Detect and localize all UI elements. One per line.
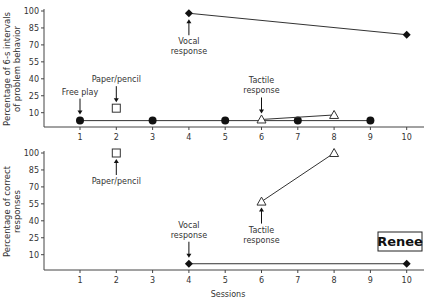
- annotation-label: response: [243, 236, 279, 245]
- y-tick-label: 55: [29, 58, 39, 67]
- square-marker: [112, 149, 120, 157]
- y-axis-title: responses: [12, 189, 22, 233]
- annotation-label: response: [243, 86, 279, 95]
- x-tick-label: 4: [186, 133, 191, 142]
- y-tick-label: 70: [29, 183, 39, 192]
- annotation-label: Paper/pencil: [92, 177, 141, 186]
- x-tick-label: 9: [368, 133, 373, 142]
- y-tick-label: 25: [29, 234, 39, 243]
- y-tick-label: 10: [29, 109, 39, 118]
- x-tick-label: 9: [368, 276, 373, 285]
- x-tick-label: 2: [114, 276, 119, 285]
- y-axis-title: Percentage of 6-s intervals: [2, 12, 12, 126]
- annotation-label: Paper/pencil: [92, 75, 141, 84]
- annotation: Vocalresponse: [171, 19, 207, 56]
- x-tick-label: 2: [114, 133, 119, 142]
- annotation-label: Free play: [62, 88, 99, 97]
- x-axis-title: Sessions: [211, 290, 246, 299]
- y-tick-label: 100: [24, 149, 39, 158]
- x-tick-label: 4: [186, 276, 191, 285]
- x-tick-label: 5: [223, 276, 228, 285]
- triangle-marker: [330, 110, 339, 118]
- y-tick-label: 55: [29, 200, 39, 209]
- annotation-label: Vocal: [178, 37, 199, 46]
- x-tick-label: 7: [295, 133, 300, 142]
- y-tick-label: 10: [29, 251, 39, 260]
- annotation-label: response: [171, 47, 207, 56]
- triangle-marker: [330, 149, 339, 157]
- x-tick-label: 10: [402, 276, 412, 285]
- annotation: Vocalresponse: [171, 221, 207, 258]
- circle-marker: [76, 117, 84, 125]
- participant-name: Renee: [377, 234, 423, 249]
- multi-panel-line-chart: 10254055708510012345678910Percentage of …: [0, 0, 428, 301]
- square-marker: [112, 104, 120, 112]
- circle-marker: [221, 117, 229, 125]
- bottom-panel-correct-responses: 10254055708510012345678910Percentage of …: [2, 149, 424, 286]
- x-tick-label: 7: [295, 276, 300, 285]
- annotation: Tactileresponse: [243, 208, 279, 245]
- y-axis-title: of problem behavior: [12, 25, 22, 112]
- participant-label-box: Renee: [377, 232, 423, 251]
- x-tick-label: 3: [150, 133, 155, 142]
- annotation: Tactileresponse: [243, 76, 279, 113]
- y-tick-label: 85: [29, 166, 39, 175]
- annotation: Paper/pencil: [92, 159, 141, 186]
- x-tick-label: 8: [332, 276, 337, 285]
- x-tick-label: 3: [150, 276, 155, 285]
- annotation: Free play: [62, 88, 99, 115]
- series-line: [189, 13, 407, 34]
- annotation-label: Tactile: [248, 226, 274, 235]
- x-tick-label: 6: [259, 276, 264, 285]
- annotation: Paper/pencil: [92, 75, 141, 102]
- x-tick-label: 1: [77, 133, 82, 142]
- circle-marker: [366, 117, 374, 125]
- diamond-marker: [185, 9, 193, 17]
- x-tick-label: 1: [77, 276, 82, 285]
- x-tick-label: 6: [259, 133, 264, 142]
- y-tick-label: 100: [24, 7, 39, 16]
- y-tick-label: 40: [29, 217, 39, 226]
- diamond-marker: [185, 260, 193, 268]
- x-tick-label: 8: [332, 133, 337, 142]
- y-tick-label: 70: [29, 41, 39, 50]
- y-tick-label: 85: [29, 24, 39, 33]
- y-axis-title: Percentage of correct: [2, 165, 12, 257]
- diamond-marker: [403, 31, 411, 39]
- y-tick-label: 40: [29, 75, 39, 84]
- annotation-label: Tactile: [248, 76, 274, 85]
- triangle-marker: [257, 197, 266, 205]
- annotation-label: response: [171, 231, 207, 240]
- diamond-marker: [403, 260, 411, 268]
- annotation-label: Vocal: [178, 221, 199, 230]
- x-tick-label: 10: [402, 133, 412, 142]
- series-line: [262, 153, 335, 202]
- y-tick-label: 25: [29, 92, 39, 101]
- circle-marker: [149, 117, 157, 125]
- x-tick-label: 5: [223, 133, 228, 142]
- top-panel-problem-behavior: 10254055708510012345678910Percentage of …: [2, 7, 424, 142]
